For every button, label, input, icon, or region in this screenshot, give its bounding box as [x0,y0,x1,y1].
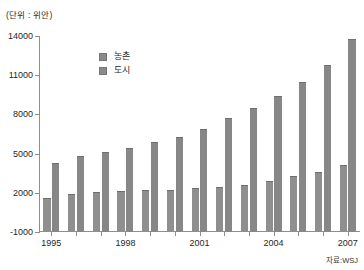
y-axis-tick-label: 14000 [8,31,33,41]
y-axis-tick-label: 5000 [13,149,33,159]
y-axis-tick-label: 11000 [9,70,33,80]
bar-도시-2000 [176,137,183,232]
x-axis-tick [150,232,151,236]
y-axis-tick-label: -1000 [10,227,33,237]
x-axis-tick-label: 2001 [189,238,209,248]
legend-item-urban: 도시 [99,66,130,75]
bar-농촌-1998 [117,191,124,232]
y-axis-tick-label: 2000 [13,188,33,198]
bar-도시-2005 [299,82,306,232]
chart-legend: 농촌 도시 [99,52,130,75]
bar-도시-1996 [77,156,84,232]
bar-농촌-2005 [290,176,297,232]
x-axis-tick [51,232,52,236]
bar-농촌-1995 [43,198,50,232]
x-axis-tick [101,232,102,236]
x-axis-tick [125,232,126,236]
bar-농촌-2004 [266,181,273,232]
legend-swatch-icon [99,53,107,61]
y-axis-tick [35,154,40,155]
x-axis-tick-label: 2004 [264,238,284,248]
bar-농촌-2006 [315,172,322,232]
x-axis-tick [348,232,349,236]
bar-농촌-1997 [93,192,100,232]
x-axis-tick [274,232,275,236]
bar-도시-2004 [274,96,281,232]
x-axis-tick [200,232,201,236]
bar-도시-2006 [324,65,331,232]
chart-container: (단위 : 위안) -10002000500080001100014000199… [0,0,364,270]
y-axis-tick [35,193,40,194]
bar-도시-1999 [151,142,158,232]
x-axis-tick-label: 1998 [115,238,135,248]
plot-area: -100020005000800011000140001995199820012… [39,36,360,232]
bar-농촌-1999 [142,190,149,232]
unit-label: (단위 : 위안) [6,8,53,20]
bar-도시-1995 [52,163,59,232]
bar-도시-1997 [102,152,109,232]
x-axis-tick [249,232,250,236]
x-axis-tick-label: 2007 [338,238,358,248]
x-axis-tick-label: 1995 [41,238,61,248]
x-axis-tick [224,232,225,236]
bar-series-group [39,36,360,232]
bar-농촌-2002 [216,187,223,232]
y-axis-tick [35,75,40,76]
bar-농촌-2003 [241,185,248,232]
bar-농촌-2007 [340,165,347,232]
x-axis-tick [175,232,176,236]
x-axis-tick [76,232,77,236]
bar-도시-2007 [348,39,355,232]
bar-도시-2002 [225,118,232,232]
bar-도시-2001 [200,129,207,232]
x-axis-tick [298,232,299,236]
y-axis-tick [35,114,40,115]
legend-swatch-icon [99,67,107,75]
bar-농촌-1996 [68,194,75,232]
y-axis-tick [35,232,40,233]
bar-농촌-2000 [167,190,174,233]
y-axis-tick [35,36,40,37]
legend-label-urban: 도시 [114,66,130,75]
bar-농촌-2001 [192,188,199,232]
y-axis-tick-label: 8000 [13,109,33,119]
x-axis-tick [323,232,324,236]
bar-도시-2003 [250,108,257,232]
source-label: 자료:WSJ [326,254,358,265]
legend-label-rural: 농촌 [114,52,130,61]
bar-도시-1998 [126,148,133,232]
legend-item-rural: 농촌 [99,52,130,61]
